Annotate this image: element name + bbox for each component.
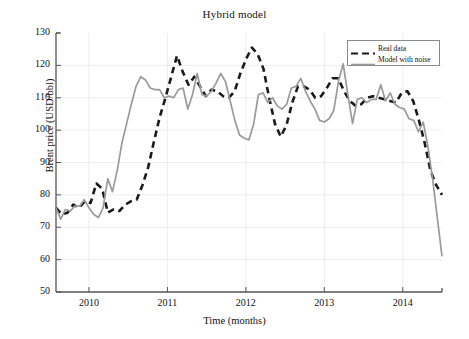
series-line-real-data — [56, 48, 442, 215]
x-tick-label: 2014 — [383, 297, 423, 308]
chart-legend: Real data Model with noise — [347, 40, 440, 66]
y-tick-label: 50 — [20, 285, 50, 296]
legend-label-model-with-noise: Model with noise — [378, 55, 431, 64]
legend-item-model-with-noise: Model with noise — [351, 54, 436, 65]
legend-swatch-solid — [351, 55, 375, 64]
y-tick-label: 100 — [20, 123, 50, 134]
legend-label-real-data: Real data — [378, 44, 406, 53]
x-tick-label: 2013 — [304, 297, 344, 308]
data-series-layer — [56, 48, 442, 257]
x-tick-label: 2011 — [147, 297, 187, 308]
y-tick-label: 90 — [20, 156, 50, 167]
y-tick-label: 60 — [20, 253, 50, 264]
y-tick-label: 130 — [20, 26, 50, 37]
chart-figure: Hybrid model Brent price (USD/bbl) Time … — [0, 0, 469, 339]
x-tick-label: 2012 — [226, 297, 266, 308]
y-tick-label: 70 — [20, 220, 50, 231]
x-tick-label: 2010 — [69, 297, 109, 308]
y-tick-label: 110 — [20, 91, 50, 102]
legend-swatch-dashed — [351, 44, 375, 53]
legend-item-real-data: Real data — [351, 43, 436, 54]
y-tick-label: 120 — [20, 58, 50, 69]
gridlines — [56, 33, 442, 292]
y-tick-label: 80 — [20, 188, 50, 199]
